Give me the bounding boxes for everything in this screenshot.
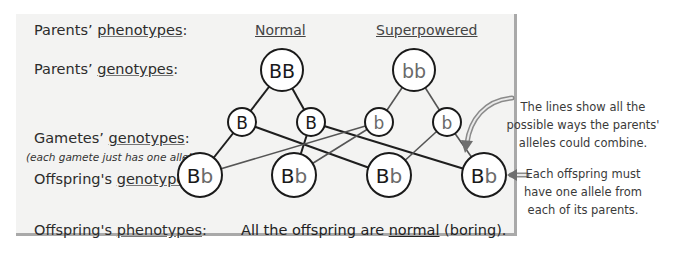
note-offspring: Each offspring must have one allele from… [524, 165, 642, 219]
offspring-genotype-text: Bb [471, 164, 497, 188]
curved-arrow-icon [461, 98, 512, 153]
offspring-genotype-text: Bb [376, 164, 402, 188]
parent-genotype-text: BB [269, 60, 295, 82]
note-lines: The lines show all the possible ways the… [506, 98, 659, 152]
gamete-allele-text: B [305, 113, 317, 133]
gamete-allele-text: b [442, 113, 453, 133]
offspring-genotype-text: Bb [187, 164, 213, 188]
gamete-allele-text: B [236, 113, 248, 133]
gamete-allele-text: b [374, 113, 385, 133]
offspring-phenotype-result: All the offspring are normal (boring). [241, 222, 506, 238]
offspring-genotype-text: Bb [281, 164, 307, 188]
parent-genotype-text: bb [402, 60, 426, 82]
allele-nodes: BBbbBBbbBbBbBbBb [178, 49, 506, 197]
